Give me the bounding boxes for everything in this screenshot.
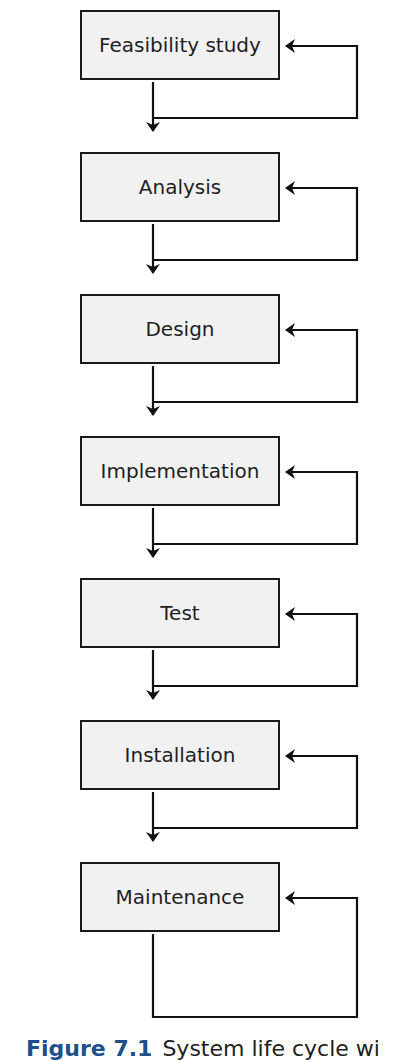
stage-implementation: Implementation bbox=[80, 436, 280, 506]
stage-analysis: Analysis bbox=[80, 152, 280, 222]
stage-test: Test bbox=[80, 578, 280, 648]
caption-text: System life cycle wi bbox=[162, 1036, 380, 1060]
figure-label: Figure 7.1 bbox=[26, 1036, 152, 1060]
figure-caption: Figure 7.1System life cycle wi bbox=[26, 1036, 380, 1060]
stage-maintenance: Maintenance bbox=[80, 862, 280, 932]
stage-design: Design bbox=[80, 294, 280, 364]
stage-installation: Installation bbox=[80, 720, 280, 790]
stage-feasibility-study: Feasibility study bbox=[80, 10, 280, 80]
